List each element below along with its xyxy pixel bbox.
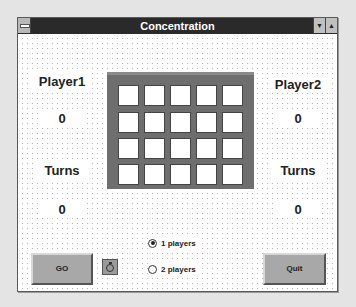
system-menu-button[interactable] [18, 18, 31, 33]
card-board [107, 72, 254, 189]
game-client-area: Player1 0 Turns 0 Player2 0 Turns 0 [18, 34, 337, 291]
card-r1-c5[interactable] [222, 85, 243, 106]
player1-turns-label: Turns [36, 162, 88, 179]
radio-1-player[interactable]: 1 players [148, 237, 202, 249]
chevron-down-icon: ▼ [316, 22, 323, 29]
card-r4-c2[interactable] [144, 164, 165, 185]
card-r4-c1[interactable] [118, 164, 139, 185]
timer-button[interactable] [102, 259, 118, 275]
minimize-button[interactable]: ▼ [313, 18, 325, 33]
radio-2-players-label: 2 players [161, 265, 196, 274]
chevron-up-icon: ▲ [328, 22, 335, 29]
card-r1-c1[interactable] [118, 85, 139, 106]
radio-selected-icon [148, 239, 157, 248]
card-r3-c1[interactable] [118, 138, 139, 159]
card-r2-c2[interactable] [144, 112, 165, 133]
player2-name-label: Player2 [268, 76, 328, 93]
card-r3-c4[interactable] [196, 138, 217, 159]
player1-score: 0 [40, 110, 84, 127]
card-r1-c2[interactable] [144, 85, 165, 106]
quit-button[interactable]: Quit [263, 253, 326, 285]
player2-turns-label: Turns [272, 162, 324, 179]
card-r3-c5[interactable] [222, 138, 243, 159]
card-r2-c5[interactable] [222, 112, 243, 133]
card-r3-c2[interactable] [144, 138, 165, 159]
title-bar: Concentration ▼ ▲ [18, 18, 337, 34]
radio-2-players[interactable]: 2 players [148, 263, 202, 275]
radio-unselected-icon [148, 265, 157, 274]
player2-turns-value: 0 [276, 201, 320, 218]
card-r4-c4[interactable] [196, 164, 217, 185]
card-r1-c3[interactable] [170, 85, 191, 106]
player2-score: 0 [276, 110, 320, 127]
player1-name-label: Player1 [32, 73, 92, 90]
window-title: Concentration [140, 20, 215, 32]
radio-1-player-label: 1 players [161, 239, 196, 248]
player1-turns-value: 0 [40, 201, 84, 218]
stopwatch-icon [106, 264, 114, 272]
card-r2-c3[interactable] [170, 112, 191, 133]
concentration-window: Concentration ▼ ▲ Player1 0 Turns 0 Play… [17, 17, 338, 292]
card-r2-c4[interactable] [196, 112, 217, 133]
card-r3-c3[interactable] [170, 138, 191, 159]
card-r4-c3[interactable] [170, 164, 191, 185]
card-r2-c1[interactable] [118, 112, 139, 133]
go-button[interactable]: GO [31, 253, 93, 285]
card-r4-c5[interactable] [222, 164, 243, 185]
card-r1-c4[interactable] [196, 85, 217, 106]
maximize-button[interactable]: ▲ [325, 18, 337, 33]
